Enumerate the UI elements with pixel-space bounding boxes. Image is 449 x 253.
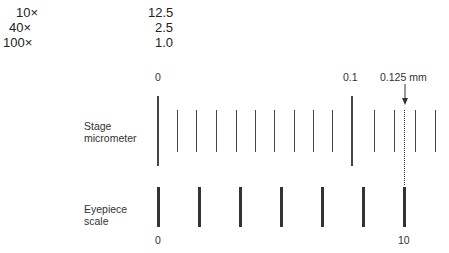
eyepiece-zero-label: 0	[155, 234, 161, 246]
stage-zero-label: 0	[155, 71, 161, 83]
eyepiece-tick	[403, 187, 406, 227]
eyepiece-tick	[198, 187, 201, 227]
eyepiece-ten-label: 10	[398, 234, 410, 246]
stage-tick	[274, 110, 275, 152]
value-100x: 1.0	[155, 35, 173, 50]
stage-tick-long	[157, 96, 159, 166]
eyepiece-tick	[321, 187, 324, 227]
stage-micrometer-label: Stage micrometer	[84, 120, 137, 144]
eyepiece-tick	[157, 187, 160, 227]
value-10x: 12.5	[148, 5, 173, 20]
alignment-dotted-line	[404, 110, 405, 185]
objective-40x: 40×	[9, 20, 31, 35]
eyepiece-scale-label: Eyepiece scale	[84, 203, 127, 227]
stage-tick	[394, 110, 395, 152]
stage-tick	[332, 110, 333, 152]
value-40x: 2.5	[155, 20, 173, 35]
objective-10x: 10×	[16, 5, 38, 20]
stage-tick	[313, 110, 314, 152]
measurement-label: 0.125 mm	[380, 71, 427, 83]
stage-tick	[435, 110, 436, 152]
arrow-down-icon	[400, 84, 410, 106]
stage-tick	[177, 110, 178, 152]
stage-tick	[374, 110, 375, 152]
stage-tick-long	[351, 96, 353, 166]
stage-tick	[196, 110, 197, 152]
stage-tick	[216, 110, 217, 152]
eyepiece-tick	[362, 187, 365, 227]
eyepiece-tick	[239, 187, 242, 227]
objective-100x: 100×	[3, 35, 32, 50]
stage-0.1-label: 0.1	[343, 71, 358, 83]
stage-tick	[415, 110, 416, 152]
stage-tick	[236, 110, 237, 152]
stage-tick	[294, 110, 295, 152]
eyepiece-tick	[280, 187, 283, 227]
stage-tick	[255, 110, 256, 152]
